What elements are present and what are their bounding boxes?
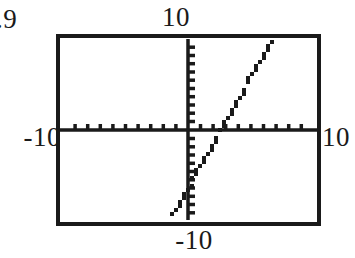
x-max-label: 10 [322,124,350,151]
y-min-label: -10 [175,227,213,254]
corner-text-fragment: .9 [0,6,17,33]
plot-canvas [56,34,321,226]
graph-figure: .9 10 -10 10 -10 [0,0,355,258]
calculator-screen [56,34,321,226]
y-max-label: 10 [162,4,190,31]
